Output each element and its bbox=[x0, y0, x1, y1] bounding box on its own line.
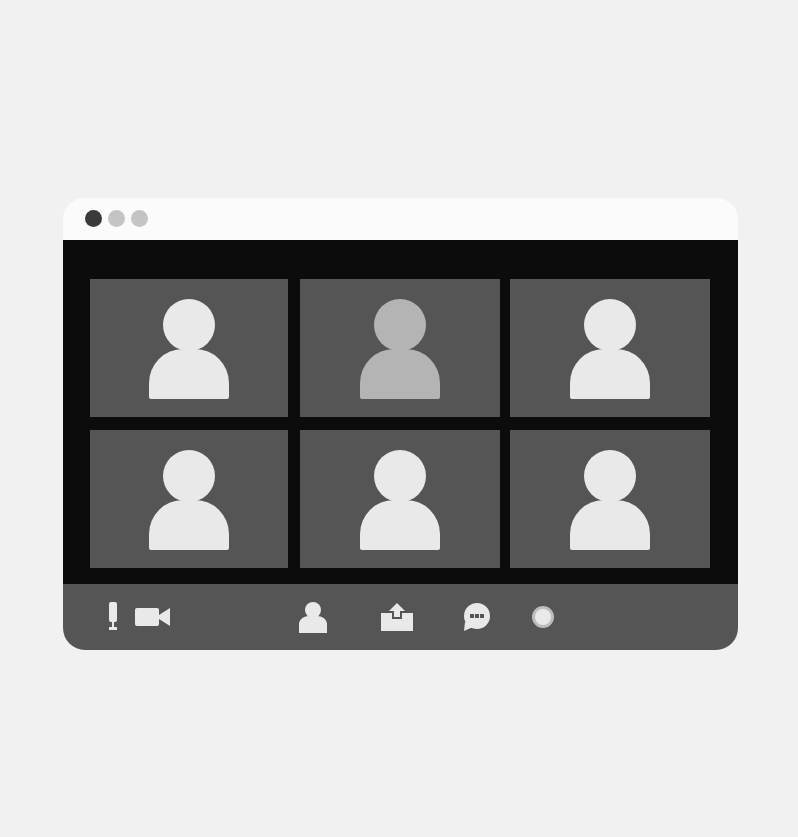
participant-tile[interactable] bbox=[510, 430, 710, 568]
participant-tile-active[interactable] bbox=[300, 279, 500, 417]
call-toolbar bbox=[63, 584, 738, 650]
title-bar bbox=[63, 198, 738, 240]
close-window-button[interactable] bbox=[85, 210, 102, 227]
mute-button[interactable] bbox=[103, 584, 123, 650]
minimize-window-button[interactable] bbox=[108, 210, 125, 227]
user-avatar-icon bbox=[570, 450, 650, 548]
participants-button[interactable] bbox=[293, 584, 333, 650]
user-avatar-icon bbox=[570, 299, 650, 397]
user-avatar-icon bbox=[360, 450, 440, 548]
video-call-window bbox=[63, 198, 738, 650]
video-camera-icon bbox=[135, 607, 171, 627]
participant-grid bbox=[63, 240, 738, 584]
video-button[interactable] bbox=[133, 584, 173, 650]
participants-icon bbox=[297, 601, 329, 633]
chat-button[interactable] bbox=[456, 584, 496, 650]
user-avatar-icon bbox=[149, 450, 229, 548]
chat-icon bbox=[461, 602, 491, 632]
share-screen-button[interactable] bbox=[377, 584, 417, 650]
share-screen-icon bbox=[381, 603, 413, 631]
record-button[interactable] bbox=[523, 584, 563, 650]
user-avatar-icon bbox=[149, 299, 229, 397]
user-avatar-icon bbox=[360, 299, 440, 397]
participant-tile[interactable] bbox=[510, 279, 710, 417]
microphone-icon bbox=[107, 602, 119, 632]
record-icon bbox=[531, 605, 555, 629]
maximize-window-button[interactable] bbox=[131, 210, 148, 227]
participant-tile[interactable] bbox=[90, 430, 288, 568]
participant-tile[interactable] bbox=[90, 279, 288, 417]
participant-tile[interactable] bbox=[300, 430, 500, 568]
